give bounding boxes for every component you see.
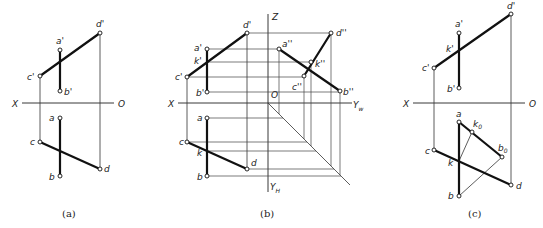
label-b0: b0 bbox=[498, 143, 508, 154]
point-a-side bbox=[277, 47, 281, 51]
point-b-top bbox=[58, 174, 62, 178]
line-cd-front bbox=[434, 14, 511, 68]
label-c-front: c' bbox=[27, 72, 34, 82]
label-k-top: k bbox=[197, 148, 203, 158]
label-b-side: b'' bbox=[343, 87, 354, 97]
label-c-top: c bbox=[30, 137, 35, 147]
axis-label-yh: YH bbox=[270, 182, 281, 194]
point-c-front bbox=[432, 66, 436, 70]
point-b-top bbox=[205, 174, 209, 178]
point-c-top bbox=[38, 140, 42, 144]
caption-a: (a) bbox=[62, 208, 76, 219]
figure-b: X O Z Yw YH bbox=[167, 12, 364, 219]
point-d-top bbox=[98, 167, 102, 171]
line-cd-top bbox=[187, 142, 247, 169]
point-b-front bbox=[457, 86, 461, 90]
figure-a: X O d' a' c' b' a c d b (a) bbox=[11, 19, 125, 219]
label-b-top: b bbox=[448, 191, 454, 201]
label-b-front: b' bbox=[196, 88, 204, 98]
label-a-front: a' bbox=[56, 36, 64, 46]
point-a-front bbox=[457, 31, 461, 35]
point-k-side bbox=[309, 60, 313, 64]
label-c-side: c'' bbox=[292, 82, 302, 92]
line-cd-front bbox=[187, 33, 247, 77]
point-b0 bbox=[500, 155, 504, 159]
projection-diagrams: X O d' a' c' b' a c d b (a) X O bbox=[0, 0, 543, 228]
point-b-front bbox=[58, 89, 62, 93]
label-k-side: k'' bbox=[315, 59, 325, 69]
point-b-front bbox=[205, 90, 209, 94]
line-k-k0 bbox=[459, 132, 472, 161]
point-c-front bbox=[38, 74, 42, 78]
label-a-top: a bbox=[197, 113, 203, 123]
label-a-front: a' bbox=[455, 19, 463, 29]
label-d-top: d bbox=[251, 158, 257, 168]
label-c-front: c' bbox=[175, 72, 182, 82]
label-a-front: a' bbox=[194, 43, 202, 53]
label-d-front: d' bbox=[243, 20, 251, 30]
point-k0 bbox=[470, 130, 474, 134]
label-k-top: k bbox=[448, 158, 454, 168]
label-c-top: c bbox=[179, 137, 184, 147]
diagonal-45-line bbox=[268, 103, 350, 185]
label-a-top: a bbox=[49, 113, 55, 123]
axis-label-x: X bbox=[402, 99, 410, 109]
label-c-top: c bbox=[425, 146, 430, 156]
line-cd-front bbox=[40, 33, 100, 76]
point-d-front bbox=[509, 12, 513, 16]
point-c-front bbox=[185, 75, 189, 79]
point-a-top bbox=[58, 116, 62, 120]
point-a-top bbox=[457, 120, 461, 124]
caption-c: (c) bbox=[468, 208, 482, 219]
point-a-front bbox=[58, 48, 62, 52]
axis-label-x: X bbox=[167, 99, 175, 109]
label-d-top: d bbox=[104, 164, 110, 174]
point-b-side bbox=[338, 89, 342, 93]
point-a-front bbox=[205, 47, 209, 51]
point-c-side bbox=[302, 74, 306, 78]
point-b-top bbox=[457, 194, 461, 198]
line-cd-side bbox=[304, 33, 331, 76]
point-d-front bbox=[98, 31, 102, 35]
label-b-top: b bbox=[49, 172, 55, 182]
point-d-top bbox=[509, 183, 513, 187]
line-b-b0 bbox=[459, 157, 502, 196]
point-d-top bbox=[245, 167, 249, 171]
figure-c: X O d' a' k' c' b' a k0 b0 c k d b (c) bbox=[402, 1, 536, 219]
line-cd-top bbox=[40, 142, 100, 169]
point-d-side bbox=[329, 31, 333, 35]
label-k-front: k' bbox=[194, 56, 202, 66]
label-a-side: a'' bbox=[282, 39, 292, 49]
point-c-top bbox=[185, 140, 189, 144]
label-k-front: k' bbox=[446, 44, 454, 54]
label-d-top: d bbox=[516, 181, 522, 191]
point-c-top bbox=[432, 148, 436, 152]
label-d-side: d'' bbox=[336, 28, 347, 38]
label-k0: k0 bbox=[473, 119, 482, 130]
caption-b: (b) bbox=[260, 208, 274, 219]
label-d-front: d' bbox=[96, 19, 104, 29]
label-c-front: c' bbox=[422, 63, 429, 73]
label-b-front: b' bbox=[447, 84, 455, 94]
axis-label-yw: Yw bbox=[353, 100, 364, 112]
label-b-top: b bbox=[197, 172, 203, 182]
point-d-front bbox=[245, 31, 249, 35]
axis-label-z: Z bbox=[271, 12, 279, 22]
label-a-top: a bbox=[456, 109, 462, 119]
label-d-front: d' bbox=[507, 1, 515, 11]
axis-label-o: O bbox=[118, 99, 125, 109]
axis-label-x: X bbox=[11, 99, 19, 109]
axis-label-o: O bbox=[529, 99, 536, 109]
point-a-top bbox=[205, 116, 209, 120]
axis-label-o: O bbox=[271, 90, 278, 100]
label-b-front: b' bbox=[64, 87, 72, 97]
